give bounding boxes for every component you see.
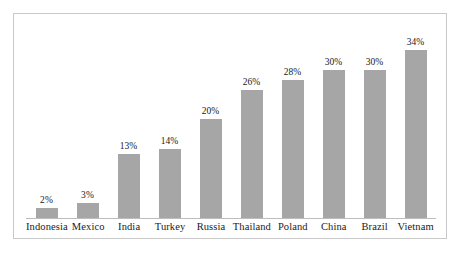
bar-rect (364, 70, 386, 218)
bar-rect (159, 149, 181, 218)
bar-value-label: 3% (81, 191, 94, 201)
bar-value-label: 28% (284, 68, 302, 78)
bar-value-label: 30% (366, 58, 384, 68)
bar-rect (118, 154, 140, 218)
bar-rect (323, 70, 345, 218)
bar-value-label: 14% (161, 137, 179, 147)
bar-cell: 30% (313, 24, 354, 218)
plot-area: 2%3%13%14%20%26%28%30%30%34% IndonesiaMe… (26, 24, 436, 238)
bar-value-label: 30% (325, 58, 343, 68)
bar-rect (200, 119, 222, 218)
category-label: Indonesia (26, 221, 68, 234)
bar-value-label: 2% (40, 196, 53, 206)
category-label: Poland (272, 221, 313, 234)
bar-cell: 3% (67, 24, 108, 218)
bar-rect (36, 208, 58, 218)
category-label: Mexico (68, 221, 109, 234)
bar-cell: 30% (354, 24, 395, 218)
bar-value-label: 34% (407, 38, 425, 48)
bar-series: 2%3%13%14%20%26%28%30%30%34% (26, 24, 436, 218)
bar-cell: 28% (272, 24, 313, 218)
bar-value-label: 13% (120, 142, 138, 152)
category-label: Turkey (150, 221, 191, 234)
category-label: Vietnam (395, 221, 436, 234)
category-label: India (109, 221, 150, 234)
category-label: Brazil (354, 221, 395, 234)
category-label: China (313, 221, 354, 234)
bar-rect (77, 203, 99, 218)
bar-cell: 34% (395, 24, 436, 218)
chart-screenshot: 2%3%13%14%20%26%28%30%30%34% IndonesiaMe… (0, 0, 460, 253)
bar-rect (241, 90, 263, 218)
category-axis-labels: IndonesiaMexicoIndiaTurkeyRussiaThailand… (26, 221, 436, 234)
chart-frame: 2%3%13%14%20%26%28%30%30%34% IndonesiaMe… (13, 13, 447, 239)
bar-value-label: 26% (243, 78, 261, 88)
category-label: Thailand (231, 221, 272, 234)
category-label: Russia (191, 221, 232, 234)
bar-cell: 2% (26, 24, 67, 218)
bar-cell: 26% (231, 24, 272, 218)
bar-rect (405, 50, 427, 218)
category-axis-line (26, 218, 436, 219)
bar-cell: 20% (190, 24, 231, 218)
bar-value-label: 20% (202, 107, 220, 117)
bar-cell: 13% (108, 24, 149, 218)
bar-cell: 14% (149, 24, 190, 218)
bar-rect (282, 80, 304, 218)
